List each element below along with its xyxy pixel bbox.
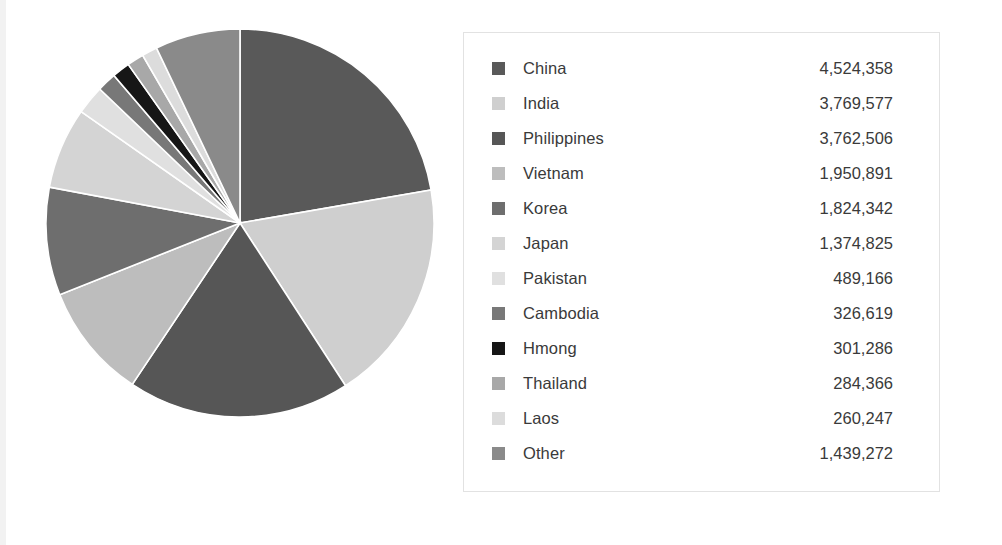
legend-item: Japan1,374,825 (492, 226, 915, 261)
pie-chart-figure: China4,524,358India3,769,577Philippines3… (0, 0, 1002, 545)
legend-swatch-icon (492, 237, 505, 250)
legend-item-value: 1,950,891 (783, 164, 915, 183)
legend-item: Korea1,824,342 (492, 191, 915, 226)
legend-panel: China4,524,358India3,769,577Philippines3… (463, 32, 940, 492)
legend-item: China4,524,358 (492, 51, 915, 86)
legend-item-value: 260,247 (783, 409, 915, 428)
legend-item-label: Cambodia (523, 304, 783, 323)
legend-item: Vietnam1,950,891 (492, 156, 915, 191)
legend-item: Other1,439,272 (492, 436, 915, 471)
legend-item-value: 1,374,825 (783, 234, 915, 253)
legend-swatch-icon (492, 202, 505, 215)
legend-item: Philippines3,762,506 (492, 121, 915, 156)
legend-item-value: 326,619 (783, 304, 915, 323)
legend-item-value: 284,366 (783, 374, 915, 393)
legend-item-label: Pakistan (523, 269, 783, 288)
scan-edge-left (0, 0, 6, 545)
legend-item-value: 1,824,342 (783, 199, 915, 218)
legend-item-label: India (523, 94, 783, 113)
legend-item-value: 489,166 (783, 269, 915, 288)
legend-swatch-icon (492, 62, 505, 75)
legend-swatch-icon (492, 447, 505, 460)
legend-item: Laos260,247 (492, 401, 915, 436)
legend-list: China4,524,358India3,769,577Philippines3… (492, 51, 915, 471)
legend-item-label: Thailand (523, 374, 783, 393)
legend-swatch-icon (492, 377, 505, 390)
legend-item: India3,769,577 (492, 86, 915, 121)
legend-swatch-icon (492, 342, 505, 355)
legend-swatch-icon (492, 307, 505, 320)
legend-item-value: 301,286 (783, 339, 915, 358)
legend-item-label: Philippines (523, 129, 783, 148)
legend-swatch-icon (492, 97, 505, 110)
pie-svg (44, 27, 436, 419)
legend-item-value: 3,769,577 (783, 94, 915, 113)
legend-swatch-icon (492, 167, 505, 180)
legend-item-label: Japan (523, 234, 783, 253)
legend-item-label: Korea (523, 199, 783, 218)
legend-item-value: 3,762,506 (783, 129, 915, 148)
pie-chart-graphic (44, 27, 436, 419)
legend-item-label: Vietnam (523, 164, 783, 183)
legend-item: Hmong301,286 (492, 331, 915, 366)
legend-item-label: Other (523, 444, 783, 463)
legend-item: Pakistan489,166 (492, 261, 915, 296)
legend-swatch-icon (492, 132, 505, 145)
legend-item-label: China (523, 59, 783, 78)
pie-slice (240, 29, 431, 223)
legend-item-value: 4,524,358 (783, 59, 915, 78)
legend-item-value: 1,439,272 (783, 444, 915, 463)
legend-item-label: Hmong (523, 339, 783, 358)
legend-item: Thailand284,366 (492, 366, 915, 401)
legend-item: Cambodia326,619 (492, 296, 915, 331)
legend-item-label: Laos (523, 409, 783, 428)
legend-swatch-icon (492, 272, 505, 285)
legend-swatch-icon (492, 412, 505, 425)
pie-slice-group (46, 29, 434, 417)
